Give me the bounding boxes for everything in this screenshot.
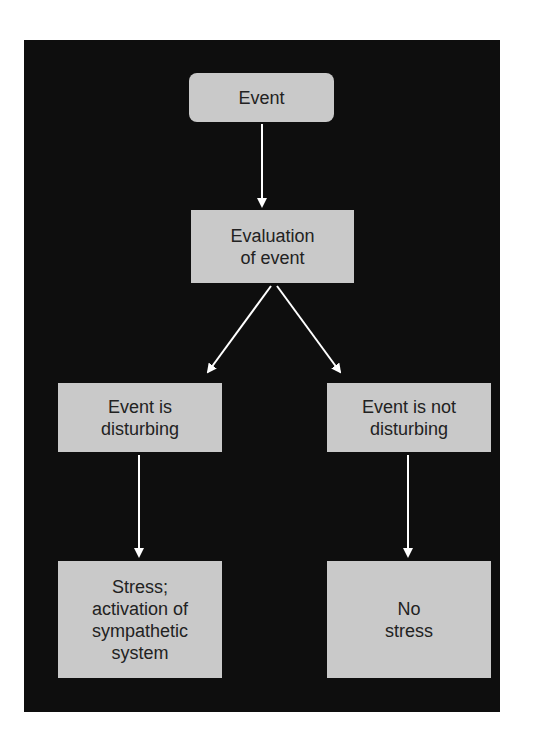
node-event-not-disturbing: Event is not disturbing: [327, 383, 491, 452]
node-stress: Stress; activation of sympathetic system: [58, 561, 222, 678]
arrow-evaluation-to-disturbing: [208, 286, 271, 372]
node-no-stress: No stress: [327, 561, 491, 678]
node-event: Event: [189, 73, 334, 122]
node-evaluation: Evaluation of event: [191, 210, 354, 283]
arrow-evaluation-to-not-disturbing: [277, 286, 340, 372]
node-event-disturbing: Event is disturbing: [58, 383, 222, 452]
